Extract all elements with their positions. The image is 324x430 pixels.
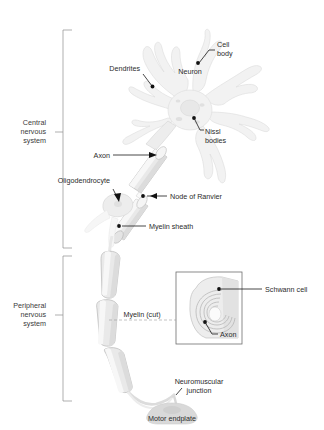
label-cns-line3: system — [23, 136, 46, 145]
label-neuron: Neuron — [178, 67, 202, 76]
label-axon: Axon — [94, 151, 110, 160]
myelin-internode-pns-2 — [97, 300, 118, 347]
label-nissl-line2: bodies — [205, 136, 227, 145]
label-neuromuscular-line1: Neuromuscular — [175, 377, 224, 386]
label-myelin-cut: Myelin (cut) — [123, 310, 160, 319]
label-motor-endplate: Motor endplate — [148, 414, 196, 423]
label-neuromuscular-line2: junction — [186, 386, 212, 395]
label-cns-line2: nervous — [20, 127, 46, 136]
label-inset-axon: Axon — [220, 330, 236, 339]
label-schwann-cell: Schwann cell — [265, 285, 308, 294]
node-leader-dot — [141, 194, 145, 198]
neuron-leader-dot — [196, 61, 200, 65]
schwann-leader-dot — [217, 287, 221, 291]
label-pns-line1: Peripheral — [13, 301, 46, 310]
label-node-of-ranvier: Node of Ranvier — [170, 192, 223, 201]
label-pns-line2: nervous — [20, 310, 46, 319]
label-pns-line3: system — [23, 319, 46, 328]
label-myelin-sheath: Myelin sheath — [149, 222, 193, 231]
myelin-leader-dot — [117, 224, 121, 228]
dendrites-leader-dot — [151, 85, 155, 89]
neuron-diagram-figure: Central nervous system Peripheral nervou… — [0, 0, 324, 430]
label-cell-body-line1: Cell — [217, 40, 230, 49]
label-cns-line1: Central — [23, 118, 47, 127]
label-oligodendrocyte: Oligodendrocyte — [58, 176, 110, 185]
label-cell-body-line2: body — [217, 49, 233, 58]
label-dendrites: Dendrites — [109, 64, 140, 73]
label-nissl-line1: Nissl — [205, 127, 221, 136]
inset-axon-core — [209, 307, 221, 321]
nucleus — [181, 100, 200, 116]
